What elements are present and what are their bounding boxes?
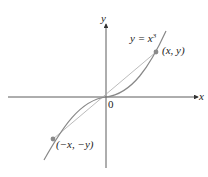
point-p [154, 50, 159, 55]
origin-label: 0 [108, 98, 114, 110]
x-axis-label: x [198, 90, 204, 102]
y-axis-label: y [100, 12, 106, 24]
point-q-label: (−x, −y) [56, 138, 94, 151]
point-q [51, 137, 56, 142]
point-p-label: (x, y) [162, 44, 185, 57]
cubic-graph: x y 0 y = x3 (x, y) (−x, −y) [0, 0, 208, 177]
curve-label: y = x3 [129, 32, 157, 44]
chord-line [53, 52, 156, 139]
